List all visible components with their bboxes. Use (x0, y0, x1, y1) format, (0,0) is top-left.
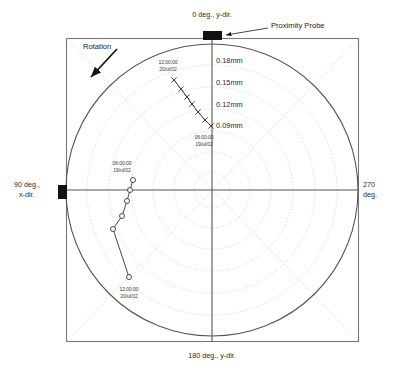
trace-lower-left-markers (111, 178, 136, 280)
radial-label-012: 0.12mm (216, 101, 243, 109)
proximity-probe-label: Proximity Probe (271, 22, 325, 30)
trace-lower-start-date: 19/ul/02 (99, 167, 145, 173)
rotation-arrow (91, 49, 117, 77)
trace-lower-end-time: 12:00:00 (106, 286, 152, 292)
proximity-probe-marker-left (58, 185, 67, 199)
left-axis-label-line1: 90 deg., (14, 181, 40, 189)
radial-label-018: 0.18mm (216, 57, 243, 65)
trace-lower-end-date: 20/ul/02 (106, 293, 152, 299)
right-axis-label-line1: 270 (363, 181, 375, 189)
trace-upper-end-time: 06:00:00 (181, 134, 227, 140)
trace-upper-end-date: 19/ul/02 (181, 141, 227, 147)
trace-lower-left (111, 178, 136, 280)
bottom-axis-label: 180 deg., y-dir. (162, 352, 262, 360)
trace-lower-left-line (113, 180, 133, 277)
figure-root: 0 deg., y-dir. 180 deg., y-dir. 90 deg.,… (0, 0, 395, 375)
trace-upper (171, 77, 213, 128)
trace-upper-start-time: 12:00:00 (145, 59, 191, 65)
left-axis-label-line2: x-dir. (19, 191, 35, 199)
radial-label-009: 0.09mm (216, 122, 243, 130)
top-axis-label: 0 deg., y-dir. (162, 11, 262, 19)
right-axis-label-line2: deg. (363, 191, 377, 199)
radial-label-015: 0.15mm (216, 79, 243, 87)
trace-lower-start-time: 06:00:00 (99, 160, 145, 166)
trace-upper-start-date: 20/ul/02 (145, 66, 191, 72)
proximity-probe-marker (203, 31, 222, 40)
probe-leader-line (226, 28, 268, 35)
rotation-label: Rotation (83, 43, 111, 51)
